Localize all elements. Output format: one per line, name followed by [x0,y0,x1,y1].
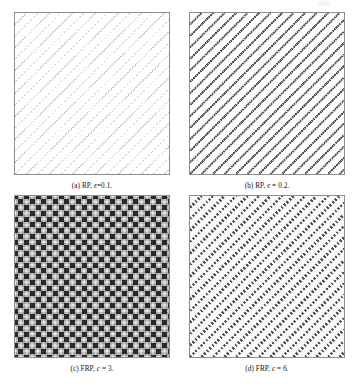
panel-caption-a-prefix: (a) RP, [72,182,94,190]
fuzzy-recurrence-plot-d [189,195,345,358]
recurrence-plot-a [14,12,170,175]
figure-panel-c: (c) FRP, c = 3. [14,195,170,374]
recurrence-plot-b [189,12,345,175]
figure-panel-b: (b) RP, ϵ = 0.2. [189,12,345,191]
panel-caption-c-suffix: = 3. [100,365,114,373]
panel-caption-c-prefix: (c) FRP, [70,365,96,373]
fuzzy-recurrence-plot-c [14,195,170,358]
panel-caption-c: (c) FRP, c = 3. [70,364,113,374]
figure-panel-d: (d) FRP, c = 6. [189,195,345,374]
figure-panel-grid: (a) RP, ϵ=0.1. (b) RP, ϵ = 0.2. (c) FRP,… [0,0,363,392]
panel-caption-d-prefix: (d) FRP, [245,365,272,373]
panel-caption-d-suffix: = 6. [275,365,289,373]
figure-panel-a: (a) RP, ϵ=0.1. [14,12,170,191]
panel-caption-d: (d) FRP, c = 6. [245,364,289,374]
panel-caption-b-suffix: = 0.2. [270,182,289,190]
panel-caption-b: (b) RP, ϵ = 0.2. [245,181,290,191]
panel-caption-a: (a) RP, ϵ=0.1. [72,181,113,191]
panel-caption-a-suffix: =0.1. [97,182,112,190]
panel-caption-b-prefix: (b) RP, [245,182,268,190]
scan-artifact [318,1,330,6]
